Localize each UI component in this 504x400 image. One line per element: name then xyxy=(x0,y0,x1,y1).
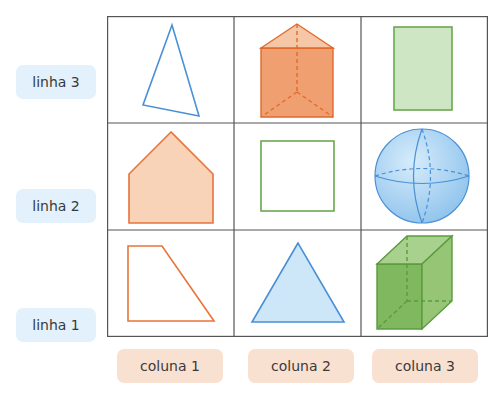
square-outline-shape xyxy=(261,141,334,211)
grid-svg xyxy=(107,16,488,337)
pentagon-shape xyxy=(129,132,213,223)
col-label-coluna-3: coluna 3 xyxy=(372,349,478,383)
trapezoid-outline-shape xyxy=(128,246,214,321)
row-label-linha-2: linha 2 xyxy=(16,189,96,223)
col-label-coluna-1: coluna 1 xyxy=(117,349,223,383)
sphere-shape xyxy=(375,129,469,223)
cube-shape xyxy=(377,236,452,329)
triangle-filled-shape xyxy=(252,243,344,322)
triangular-prism-shape xyxy=(261,24,333,117)
col-label-coluna-2: coluna 2 xyxy=(248,349,354,383)
triangle-outline-shape xyxy=(143,25,199,116)
shape-grid xyxy=(107,16,488,337)
rectangle-shape xyxy=(394,27,452,110)
row-label-linha-1: linha 1 xyxy=(16,308,96,342)
row-label-linha-3: linha 3 xyxy=(16,65,96,99)
